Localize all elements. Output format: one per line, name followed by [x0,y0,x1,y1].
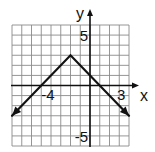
labels-layer: x y -435-5 [40,5,148,145]
tick-label-x: -4 [41,86,54,103]
tick-label-y: 5 [80,27,88,44]
tick-label-y: -5 [75,128,88,145]
y-axis-label: y [76,5,84,22]
graph-figure: x y -435-5 [0,0,155,152]
y-axis-arrow-icon [87,9,93,16]
x-axis-label: x [140,87,148,104]
tick-label-x: 3 [117,86,125,103]
x-axis-arrow-icon [132,83,139,89]
